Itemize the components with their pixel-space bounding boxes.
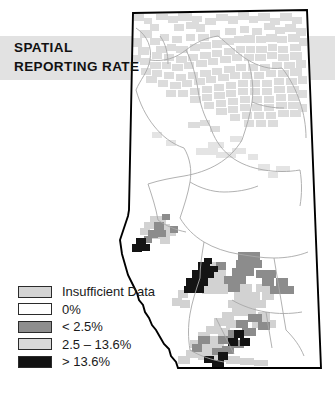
legend-swatch-zero xyxy=(18,303,52,315)
legend-label-lt-2-5: < 2.5% xyxy=(62,320,103,333)
legend-label-zero: 0% xyxy=(62,303,81,316)
legend-item-gt-13-6: > 13.6% xyxy=(18,353,155,371)
legend-label-gt-13-6: > 13.6% xyxy=(62,355,110,368)
page-title-line-1: SPATIAL xyxy=(14,38,139,57)
spatial-reporting-rate-figure: SPATIAL REPORTING RATE Insufficient Data… xyxy=(0,0,335,393)
map-legend: Insufficient Data 0% < 2.5% 2.5 – 13.6% … xyxy=(18,283,155,371)
legend-item-zero: 0% xyxy=(18,301,155,319)
legend-swatch-insufficient-data xyxy=(18,286,52,298)
legend-label-insufficient-data: Insufficient Data xyxy=(62,285,155,298)
legend-item-insufficient-data: Insufficient Data xyxy=(18,283,155,301)
legend-swatch-2-5-to-13-6 xyxy=(18,338,52,350)
page-title: SPATIAL REPORTING RATE xyxy=(14,38,139,76)
legend-swatch-gt-13-6 xyxy=(18,356,52,368)
legend-item-lt-2-5: < 2.5% xyxy=(18,318,155,336)
legend-swatch-lt-2-5 xyxy=(18,321,52,333)
legend-item-2-5-to-13-6: 2.5 – 13.6% xyxy=(18,336,155,354)
page-title-line-2: REPORTING RATE xyxy=(14,57,139,76)
legend-label-2-5-to-13-6: 2.5 – 13.6% xyxy=(62,338,131,351)
